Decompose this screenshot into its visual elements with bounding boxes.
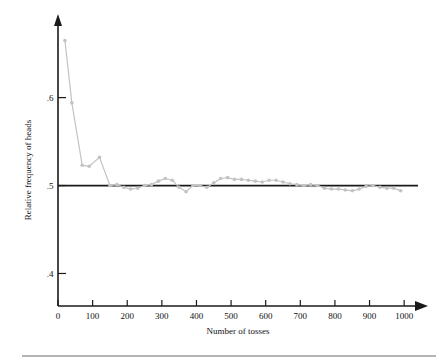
y-axis-arrowhead [54, 14, 62, 26]
x-tick-label: 1000 [395, 311, 414, 321]
x-tick-label: 900 [363, 311, 377, 321]
data-point-marker [98, 156, 102, 160]
x-tick-label: 100 [86, 311, 100, 321]
data-point-marker [254, 179, 258, 183]
data-point-marker [191, 184, 195, 188]
data-point-marker [295, 183, 299, 187]
data-point-marker [219, 177, 223, 181]
data-point-marker [129, 187, 133, 191]
data-point-marker [274, 178, 278, 182]
data-point-marker [170, 178, 174, 182]
y-tick-label: .6 [47, 93, 54, 103]
y-tick-label: .4 [47, 269, 54, 279]
data-point-marker [281, 180, 285, 184]
data-point-marker [226, 176, 230, 180]
data-point-marker [150, 183, 154, 187]
x-tick-label: 0 [56, 311, 61, 321]
data-point-marker [233, 178, 237, 182]
data-point-marker [309, 183, 313, 187]
data-point-marker [330, 187, 334, 191]
data-point-marker [357, 187, 361, 191]
x-tick-label: 700 [294, 311, 308, 321]
x-axis-arrowhead [415, 301, 428, 311]
data-point-marker [198, 184, 202, 188]
x-tick-label: 200 [120, 311, 134, 321]
data-point-marker [371, 184, 375, 188]
data-point-marker [378, 186, 382, 190]
y-axis [54, 14, 62, 306]
data-point-marker [205, 186, 209, 190]
x-tick-label: 500 [224, 311, 238, 321]
data-point-marker [157, 179, 161, 183]
data-point-marker [337, 187, 341, 191]
data-point-marker [302, 184, 306, 188]
data-point-marker [240, 178, 244, 182]
data-point-marker [136, 186, 140, 190]
relative-frequency-series-line [65, 40, 401, 191]
data-point-marker [364, 185, 368, 189]
data-point-marker [247, 178, 251, 182]
data-point-marker [212, 181, 216, 185]
x-tick-label: 600 [259, 311, 273, 321]
data-point-marker [344, 188, 348, 192]
data-point-marker [392, 186, 396, 190]
chart-figure: .4.5.6 01002003004005006007008009001000 … [0, 0, 438, 364]
y-axis-title: Relative frequency of heads [23, 119, 33, 220]
data-point-marker [177, 186, 181, 190]
data-point-marker [316, 184, 320, 188]
data-point-marker [70, 101, 74, 105]
data-point-marker [108, 184, 112, 188]
data-point-marker [164, 177, 168, 181]
data-point-marker [267, 178, 271, 182]
data-point-marker [63, 39, 67, 43]
x-axis-title: Number of tosses [207, 326, 270, 336]
x-tick-group: 01002003004005006007008009001000 [56, 300, 414, 321]
x-tick-label: 400 [190, 311, 204, 321]
data-point-marker [115, 183, 119, 187]
data-point-marker [143, 184, 147, 188]
data-point-marker [385, 186, 389, 190]
data-point-marker [184, 190, 188, 194]
data-point-marker [122, 186, 126, 190]
relative-frequency-line-chart: .4.5.6 01002003004005006007008009001000 … [0, 0, 438, 364]
data-point-marker [87, 164, 91, 168]
x-tick-label: 300 [155, 311, 169, 321]
data-point-marker [350, 189, 354, 193]
data-point-marker [80, 164, 84, 168]
y-tick-label: .5 [47, 181, 54, 191]
data-point-marker [399, 189, 403, 193]
data-point-marker [323, 186, 327, 190]
data-point-marker [260, 180, 264, 184]
x-tick-label: 800 [328, 311, 342, 321]
relative-frequency-series-markers [63, 39, 402, 194]
data-point-marker [288, 182, 292, 186]
x-axis [58, 301, 428, 311]
